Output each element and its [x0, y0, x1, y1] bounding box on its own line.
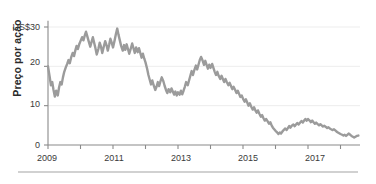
x-tick-label-2017: 2017	[292, 153, 338, 163]
x-tick-label-2015: 2015	[225, 153, 271, 163]
x-tick-label-2013: 2013	[158, 153, 204, 163]
x-tick-label-2011: 2011	[91, 153, 137, 163]
x-axis-tick-labels: 2009 2011 2013 2015 2017	[0, 0, 376, 184]
stock-price-chart-figure: Preço por ação US$30 20 10 0 2009 2011 2…	[0, 0, 376, 184]
x-tick-label-2009: 2009	[24, 153, 70, 163]
